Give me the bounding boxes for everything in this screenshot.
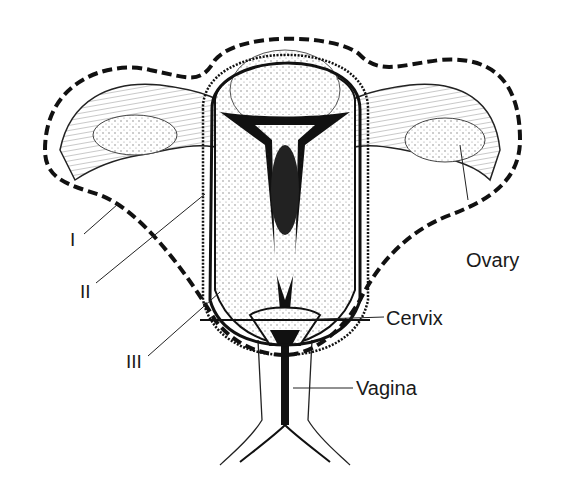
label-vagina: Vagina: [356, 378, 417, 398]
uterus: [215, 50, 355, 345]
leader-line-1: [84, 204, 118, 234]
right-fallopian-tube: [340, 84, 500, 180]
label-line-1: I: [70, 230, 75, 249]
label-ovary: Ovary: [466, 250, 519, 270]
leader-line-2: [96, 194, 205, 283]
label-cervix: Cervix: [386, 308, 443, 328]
leader-line-3: [148, 292, 220, 356]
label-line-3: III: [126, 352, 142, 371]
vagina: [220, 340, 350, 465]
ovary-shape: [405, 118, 485, 162]
label-line-2: II: [80, 282, 91, 301]
